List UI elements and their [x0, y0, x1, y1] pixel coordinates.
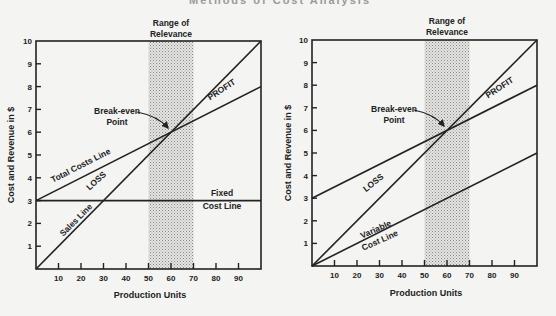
svg-text:6: 6 — [28, 128, 33, 137]
x-tick-labels: 10 20 30 40 50 60 70 80 90 — [54, 274, 243, 283]
svg-text:10: 10 — [330, 271, 339, 280]
svg-text:10: 10 — [299, 36, 308, 45]
breakeven-label-line2: Point — [106, 117, 127, 127]
breakeven-label-line1: Break-even — [94, 106, 140, 116]
y-axis-label: Cost and Revenue in $ — [6, 107, 16, 204]
sales-line-label: Sales Line — [57, 201, 94, 238]
left-chart: Range of Relevance 1 2 3 4 5 6 7 8 9 10 — [6, 18, 261, 300]
svg-text:7: 7 — [28, 105, 33, 114]
svg-text:3: 3 — [304, 194, 309, 203]
svg-text:8: 8 — [28, 83, 33, 92]
svg-text:80: 80 — [212, 274, 221, 283]
svg-text:8: 8 — [304, 81, 309, 90]
svg-text:40: 40 — [398, 271, 407, 280]
x-axis-label: Production Units — [114, 290, 187, 300]
breakeven-label-line1: Break-even — [371, 104, 417, 114]
svg-text:1: 1 — [28, 242, 33, 251]
svg-text:9: 9 — [28, 60, 33, 69]
range-label-line1: Range of — [429, 16, 466, 26]
y-axis-label: Cost and Revenue in $ — [283, 105, 293, 202]
svg-text:30: 30 — [99, 274, 108, 283]
range-label-line1: Range of — [153, 18, 190, 28]
y-tick-labels: 1 2 3 4 5 6 7 8 9 10 — [299, 36, 308, 248]
svg-text:70: 70 — [189, 274, 198, 283]
svg-text:90: 90 — [234, 274, 243, 283]
svg-text:80: 80 — [488, 271, 497, 280]
range-label-line2: Relevance — [426, 27, 468, 37]
x-ticks — [59, 263, 239, 269]
svg-text:2: 2 — [304, 217, 309, 226]
breakeven-label-line2: Point — [383, 115, 404, 125]
svg-text:5: 5 — [304, 149, 309, 158]
svg-text:2: 2 — [28, 219, 33, 228]
svg-text:4: 4 — [304, 172, 309, 181]
svg-text:5: 5 — [28, 151, 33, 160]
svg-text:3: 3 — [28, 197, 33, 206]
svg-text:70: 70 — [465, 271, 474, 280]
svg-text:50: 50 — [420, 271, 429, 280]
range-of-relevance-band — [425, 40, 470, 266]
x-ticks — [335, 260, 515, 266]
svg-text:9: 9 — [304, 59, 309, 68]
right-chart: Range of Relevance 1 2 3 4 5 6 7 8 9 10 — [283, 16, 537, 298]
svg-text:30: 30 — [375, 271, 384, 280]
svg-text:6: 6 — [304, 126, 309, 135]
svg-text:20: 20 — [353, 271, 362, 280]
svg-text:4: 4 — [28, 174, 33, 183]
svg-text:10: 10 — [54, 274, 63, 283]
svg-text:40: 40 — [122, 274, 131, 283]
svg-text:60: 60 — [167, 274, 176, 283]
fixed-cost-label-line2: Cost Line — [203, 201, 242, 211]
svg-text:1: 1 — [304, 239, 309, 248]
svg-text:60: 60 — [443, 271, 452, 280]
y-tick-labels: 1 2 3 4 5 6 7 8 9 10 — [23, 37, 32, 251]
svg-text:20: 20 — [77, 274, 86, 283]
svg-text:50: 50 — [144, 274, 153, 283]
loss-label: LOSS — [84, 169, 108, 192]
x-tick-labels: 10 20 30 40 50 60 70 80 90 — [330, 271, 519, 280]
range-label-line2: Relevance — [150, 29, 192, 39]
svg-text:90: 90 — [510, 271, 519, 280]
x-axis-label: Production Units — [390, 288, 463, 298]
loss-label: LOSS — [361, 171, 386, 193]
svg-text:10: 10 — [23, 37, 32, 46]
range-of-relevance-band — [149, 41, 194, 269]
svg-text:7: 7 — [304, 104, 309, 113]
fixed-cost-label-line1: Fixed — [211, 188, 233, 198]
